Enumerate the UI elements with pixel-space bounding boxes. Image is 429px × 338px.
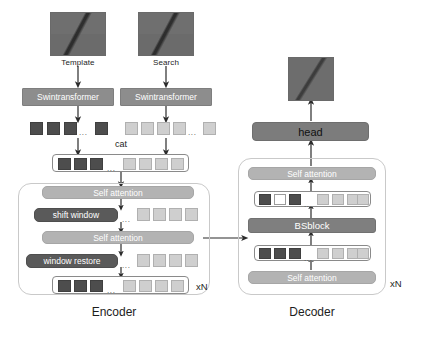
ellipsis-label: ...	[107, 287, 115, 295]
search-label: Search	[126, 58, 206, 67]
token-light	[155, 280, 168, 292]
token-dark	[58, 280, 71, 292]
token-light	[157, 122, 170, 135]
token-light	[332, 248, 344, 259]
token-empty	[274, 194, 286, 205]
token-dark	[259, 194, 271, 205]
encoder-output-token-strip: ...	[52, 276, 189, 294]
token-light	[357, 248, 369, 259]
encoder-title: Encoder	[64, 305, 164, 319]
token-dark	[289, 194, 301, 205]
template-image	[50, 12, 106, 56]
token-light	[357, 194, 369, 205]
diagram-canvas: Template Search Swintransformer Swintran…	[0, 0, 429, 338]
encoder-restore-token-row: ...	[120, 254, 200, 268]
token-light	[171, 280, 184, 292]
token-dark	[274, 248, 286, 259]
decoder-title: Decoder	[262, 305, 362, 319]
token-dark	[47, 122, 60, 135]
swintransformer-template-block[interactable]: Swintransformer	[22, 88, 114, 106]
encoder-shift-window-block[interactable]: shift window	[34, 208, 118, 222]
token-light	[185, 208, 198, 221]
token-light	[137, 254, 150, 267]
encoder-self-attention-2[interactable]: Self attention	[42, 231, 194, 244]
output-image	[288, 57, 334, 101]
ellipsis-label: ...	[304, 201, 312, 209]
token-light	[169, 208, 182, 221]
token-light	[173, 122, 186, 135]
token-light	[203, 122, 216, 135]
decoder-self-attention-top[interactable]: Self attention	[248, 167, 376, 180]
token-light	[155, 158, 168, 170]
token-dark	[90, 158, 103, 170]
token-dark	[95, 122, 108, 135]
token-light	[139, 280, 152, 292]
token-light	[137, 208, 150, 221]
token-dark	[289, 248, 301, 259]
decoder-self-attention-bottom[interactable]: Self attention	[248, 271, 376, 284]
swintransformer-search-block[interactable]: Swintransformer	[120, 88, 212, 106]
token-dark	[64, 122, 77, 135]
decoder-lower-token-strip: ...	[254, 245, 371, 261]
template-token-row: ...	[30, 121, 130, 137]
token-light	[139, 158, 152, 170]
encoder-shift-token-row: ...	[120, 208, 200, 222]
token-dark	[74, 280, 87, 292]
token-light	[153, 254, 166, 267]
token-light	[153, 208, 166, 221]
token-dark	[58, 158, 71, 170]
token-light	[141, 122, 154, 135]
token-light	[317, 248, 329, 259]
decoder-bsblock[interactable]: BSblock	[248, 218, 376, 233]
head-block[interactable]: head	[252, 122, 369, 141]
concat-label: cat	[96, 139, 146, 149]
template-label: Template	[38, 58, 118, 67]
token-dark	[74, 158, 87, 170]
token-light	[185, 254, 198, 267]
token-dark	[30, 122, 43, 135]
ellipsis-label: ...	[107, 165, 115, 173]
encoder-repeat-label: xN	[196, 281, 208, 292]
token-light	[169, 254, 182, 267]
ellipsis-label: ...	[122, 216, 130, 224]
token-light	[123, 280, 136, 292]
ellipsis-label: ...	[79, 129, 87, 137]
decoder-repeat-label: xN	[390, 278, 402, 289]
token-dark	[90, 280, 103, 292]
search-image	[138, 12, 194, 56]
search-token-row: ...	[125, 121, 235, 137]
token-dark	[259, 248, 271, 259]
encoder-self-attention-1[interactable]: Self attention	[42, 186, 194, 199]
ellipsis-label: ...	[304, 255, 312, 263]
encoder-window-restore-block[interactable]: window restore	[26, 254, 118, 268]
token-light	[332, 194, 344, 205]
decoder-upper-token-strip: ...	[254, 191, 371, 207]
ellipsis-label: ...	[188, 129, 196, 137]
token-light	[317, 194, 329, 205]
token-light	[171, 158, 184, 170]
token-light	[125, 122, 138, 135]
token-light	[123, 158, 136, 170]
ellipsis-label: ...	[122, 262, 130, 270]
concat-token-strip: ...	[52, 154, 189, 172]
